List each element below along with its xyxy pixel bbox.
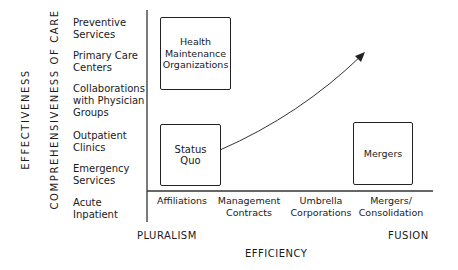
box-status-quo: Status Quo — [160, 124, 221, 186]
x-axis-label: EFFICIENCY — [245, 248, 307, 259]
x-pole-pluralism: PLURALISM — [137, 230, 197, 241]
trend-arrow — [220, 55, 362, 150]
x-pole-fusion: FUSION — [388, 230, 429, 241]
box-health-maintenance-organizations: Health Maintenance Organizations — [160, 17, 231, 90]
x-category-mergers-consolidation: Mergers/ Consolidation — [356, 195, 426, 219]
x-category-umbrella-corporations: Umbrella Corporations — [286, 195, 356, 219]
x-category-management-contracts: Management Contracts — [216, 195, 282, 219]
box-mergers: Mergers — [353, 122, 413, 185]
x-category-affiliations: Affiliations — [150, 195, 214, 207]
